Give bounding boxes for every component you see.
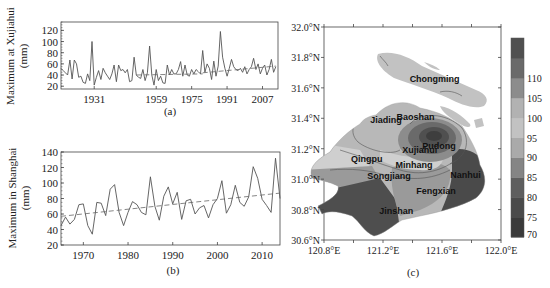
ytick-label: 20 bbox=[47, 239, 59, 251]
district-label: Jinshan bbox=[379, 206, 413, 216]
lon-label: 122.0°E bbox=[485, 245, 518, 256]
ytick-label: 100 bbox=[42, 36, 59, 48]
data-line bbox=[61, 32, 276, 86]
ytick-label: 100 bbox=[42, 177, 59, 189]
lat-label: 31.2°N bbox=[291, 144, 320, 155]
trend-line bbox=[136, 74, 202, 75]
colorbar-label: 95 bbox=[527, 133, 537, 144]
ytick-label: 40 bbox=[47, 224, 59, 236]
district-label: Minhang bbox=[395, 160, 432, 170]
xtick-label: 1975 bbox=[181, 93, 204, 105]
ytick-label: 60 bbox=[47, 58, 59, 70]
district-label: Songjiang bbox=[367, 171, 411, 181]
colorbar-segment bbox=[511, 38, 524, 58]
lat-label: 32.0°N bbox=[291, 22, 320, 33]
ytick-label: 80 bbox=[47, 193, 59, 205]
ylabel-b-line2: (mm) bbox=[19, 185, 32, 210]
colorbar-segment bbox=[511, 197, 524, 217]
xtick-label: 1991 bbox=[216, 93, 238, 105]
colorbar: 707580859095100105110 bbox=[511, 38, 542, 240]
district-label: Jiading bbox=[370, 115, 402, 125]
series-b bbox=[61, 158, 280, 234]
colorbar-label: 105 bbox=[527, 93, 542, 104]
colorbar-segment bbox=[511, 217, 524, 237]
lat-label: 31.6°N bbox=[291, 83, 320, 94]
colorbar-segment bbox=[511, 58, 524, 78]
district-label: Baoshan bbox=[396, 112, 434, 122]
xtick-label: 1990 bbox=[162, 249, 185, 261]
colorbar-segment bbox=[511, 118, 524, 138]
xtick-label: 1931 bbox=[83, 93, 105, 105]
colorbar-segment bbox=[511, 138, 524, 158]
ylabel-a-line1: Maximum at Xujiahui bbox=[4, 7, 16, 105]
ylabel-a-line2: (mm) bbox=[17, 43, 30, 68]
colorbar-segment bbox=[511, 98, 524, 118]
ytick-label: 140 bbox=[42, 146, 59, 158]
colorbar-segment bbox=[511, 177, 524, 197]
colorbar-label: 80 bbox=[527, 192, 537, 203]
lon-label: 121.2°E bbox=[367, 245, 400, 256]
colorbar-label: 85 bbox=[527, 172, 537, 183]
xtick-label: 1970 bbox=[72, 249, 95, 261]
lat-label: 31.4°N bbox=[291, 113, 320, 124]
district-label: Qingpu bbox=[351, 154, 383, 164]
colorbar-segment bbox=[511, 157, 524, 177]
xtick-label: 1980 bbox=[117, 249, 140, 261]
district-label: Xujiahui bbox=[402, 145, 437, 155]
panel-a: Maximum at Xujiahui (mm) 20406080100120 … bbox=[4, 7, 278, 118]
ytick-label: 20 bbox=[47, 80, 59, 92]
panel-b: Maximum in Shanghai (mm) 204060801001201… bbox=[6, 146, 280, 277]
panel-c: ChongmingBaoshanJiadingPudongXujiahuiQin… bbox=[291, 22, 542, 279]
panel-label-c: (c) bbox=[407, 266, 420, 279]
district-label: Chongming bbox=[410, 74, 460, 84]
lon-label: 120.8°E bbox=[308, 245, 341, 256]
district-label: Nanhui bbox=[450, 170, 481, 180]
panel-label-a: (a) bbox=[164, 105, 177, 118]
ytick-label: 60 bbox=[47, 208, 59, 220]
colorbar-segment bbox=[511, 78, 524, 98]
series-a bbox=[61, 32, 276, 86]
ylabel-b: Maximum in Shanghai (mm) bbox=[6, 148, 32, 249]
lat-label: 31.8°N bbox=[291, 52, 320, 63]
colorbar-label: 70 bbox=[527, 229, 537, 240]
colorbar-label: 90 bbox=[527, 152, 537, 163]
plot-frame-b bbox=[61, 152, 280, 245]
ytick-label: 120 bbox=[42, 162, 59, 174]
colorbar-label: 75 bbox=[527, 212, 537, 223]
ytick-label: 80 bbox=[47, 47, 59, 59]
xtick-label: 2000 bbox=[206, 249, 229, 261]
lat-label: 31.0°N bbox=[291, 174, 320, 185]
lon-label: 121.6°E bbox=[426, 245, 459, 256]
ytick-label: 40 bbox=[47, 69, 59, 81]
ylabel-b-line1: Maximum in Shanghai bbox=[6, 148, 18, 249]
district-label: Fengxian bbox=[416, 186, 456, 196]
figure: Maximum at Xujiahui (mm) 20406080100120 … bbox=[0, 0, 550, 288]
lat-label: 30.8°N bbox=[291, 205, 320, 216]
xtick-label: 2010 bbox=[251, 249, 274, 261]
xtick-label: 1959 bbox=[145, 93, 168, 105]
ytick-label: 120 bbox=[42, 24, 59, 36]
colorbar-label: 110 bbox=[527, 73, 542, 84]
ylabel-a: Maximum at Xujiahui (mm) bbox=[4, 7, 30, 105]
panel-label-b: (b) bbox=[167, 264, 180, 277]
colorbar-label: 100 bbox=[527, 113, 542, 124]
xtick-label: 2007 bbox=[252, 93, 275, 105]
